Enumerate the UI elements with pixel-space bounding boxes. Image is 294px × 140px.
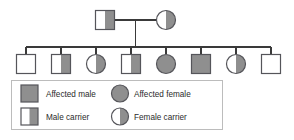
pedigree-canvas: Affected male Affected female Male carri… xyxy=(0,0,294,140)
carrier-half-fill xyxy=(105,11,115,30)
legend-square-affected-icon xyxy=(21,85,38,102)
legend-square-carrier-half-fill xyxy=(30,108,39,125)
legend-box: Affected male Affected female Male carri… xyxy=(12,81,223,130)
symbol-square-affected xyxy=(192,55,211,74)
individual-child-7[interactable] xyxy=(227,55,246,74)
legend-circle-affected-icon xyxy=(112,85,129,102)
generation-ii xyxy=(17,55,281,74)
pedigree-connector-lines xyxy=(26,20,271,54)
carrier-half-fill xyxy=(61,55,71,74)
symbol-square xyxy=(262,55,281,74)
legend-label-male-carrier: Male carrier xyxy=(46,113,89,122)
legend-label-affected-female: Affected female xyxy=(134,90,191,99)
individual-father[interactable] xyxy=(96,11,115,30)
individual-child-4[interactable] xyxy=(122,55,141,74)
individual-child-3[interactable] xyxy=(87,55,106,74)
symbol-circle-affected xyxy=(157,55,176,74)
individual-child-1[interactable] xyxy=(17,55,36,74)
carrier-half-fill xyxy=(131,55,141,74)
individual-child-5[interactable] xyxy=(157,55,176,74)
legend-label-female-carrier: Female carrier xyxy=(134,113,187,122)
symbol-square xyxy=(17,55,36,74)
individual-child-6[interactable] xyxy=(192,55,211,74)
individual-child-2[interactable] xyxy=(52,55,71,74)
pedigree-chart: Affected male Affected female Male carri… xyxy=(0,0,294,140)
legend-label-affected-male: Affected male xyxy=(46,90,96,99)
individual-child-8[interactable] xyxy=(262,55,281,74)
individual-mother[interactable] xyxy=(157,11,176,30)
